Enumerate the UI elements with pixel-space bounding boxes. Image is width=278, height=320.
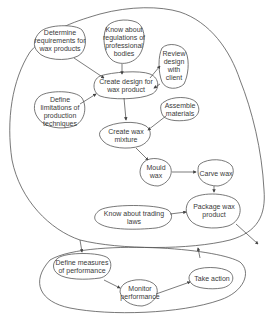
node-determine: Determine requirements for wax products	[34, 26, 86, 60]
svg-text:techniques: techniques	[43, 120, 77, 128]
svg-text:wax: wax	[149, 172, 163, 179]
svg-text:Create design for: Create design for	[99, 78, 153, 86]
svg-text:Know about: Know about	[106, 26, 143, 33]
node-trading: Know about trading laws	[95, 206, 172, 230]
svg-text:Take action: Take action	[194, 275, 230, 282]
svg-text:design: design	[164, 58, 185, 66]
svg-text:materials: materials	[166, 110, 195, 117]
node-mould: Mould wax	[140, 159, 171, 186]
svg-text:of performance: of performance	[58, 267, 105, 275]
node-action: Take action	[189, 268, 233, 289]
svg-text:requirements for: requirements for	[35, 37, 87, 45]
node-limitations: Define limitations of production techniq…	[34, 92, 84, 128]
node-review: Review design with client	[159, 45, 188, 89]
svg-text:Monitor: Monitor	[128, 285, 152, 292]
node-package: Package wax product	[186, 194, 240, 228]
svg-text:Review: Review	[163, 50, 187, 57]
svg-text:laws: laws	[127, 218, 142, 225]
svg-text:Define: Define	[50, 96, 70, 103]
svg-text:Carve wax: Carve wax	[199, 170, 233, 177]
svg-text:wax product: wax product	[106, 86, 145, 94]
node-carve: Carve wax	[198, 160, 233, 186]
svg-text:wax products: wax products	[38, 45, 81, 53]
node-mixture: Create wax mixture	[100, 122, 151, 148]
svg-text:Mould: Mould	[146, 164, 165, 171]
svg-text:limitations of: limitations of	[41, 104, 80, 111]
svg-text:regulations of: regulations of	[103, 34, 145, 42]
svg-text:professional: professional	[105, 42, 143, 50]
svg-text:client: client	[166, 74, 182, 81]
svg-text:product: product	[202, 211, 225, 219]
node-measures: Define measures of performance	[54, 254, 111, 280]
node-assemble: Assemble materials	[161, 98, 199, 121]
svg-text:Know about trading: Know about trading	[104, 210, 164, 218]
svg-text:Determine: Determine	[44, 29, 76, 36]
node-create-design: Create design for wax product	[94, 72, 158, 99]
svg-text:Package wax: Package wax	[193, 203, 235, 211]
svg-text:Assemble: Assemble	[165, 102, 196, 109]
node-monitor: Monitor performance	[120, 280, 160, 306]
node-regulations: Know about regulations of professional b…	[103, 20, 145, 63]
svg-text:performance: performance	[120, 293, 159, 301]
svg-text:mixture: mixture	[115, 136, 138, 143]
svg-text:Create wax: Create wax	[108, 128, 144, 135]
svg-text:production: production	[44, 112, 77, 120]
svg-text:bodies: bodies	[114, 50, 135, 57]
svg-text:with: with	[167, 66, 181, 73]
svg-text:Define measures: Define measures	[56, 259, 109, 266]
process-diagram: Determine requirements for wax products …	[0, 0, 278, 320]
